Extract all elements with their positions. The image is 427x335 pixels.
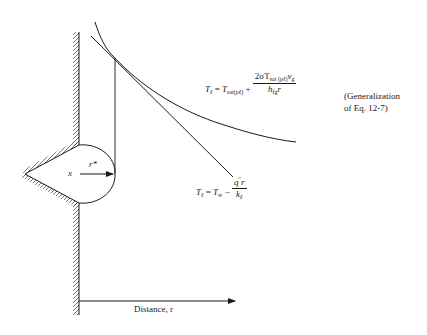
critical-radius-label: r* xyxy=(89,160,97,169)
curve-note-line1: (Generalization xyxy=(344,92,400,101)
cavity-center-label: x xyxy=(68,169,72,178)
wall-upper xyxy=(73,32,79,145)
curve-note-line2: of Eq. 12-7) xyxy=(344,104,388,113)
saturation-curve-equation: Tℓ = Tsat(pℓ) + 2σTsat (pℓ)vg hfgr xyxy=(205,84,296,95)
wall-lower xyxy=(73,203,79,315)
liquid-line-equation: Tℓ = Tw − q″r kℓ xyxy=(196,186,247,200)
liquid-temperature-line xyxy=(91,36,233,177)
distance-axis-label: Distance, r xyxy=(134,305,173,314)
diagram-canvas xyxy=(0,0,427,335)
